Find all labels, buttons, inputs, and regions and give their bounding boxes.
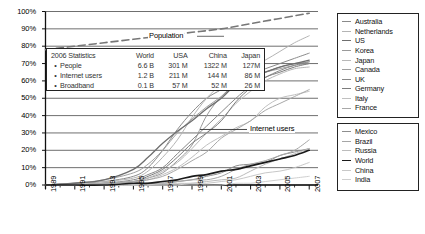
legend-label: Italy <box>355 95 368 102</box>
series-line-italy <box>46 91 310 185</box>
legend-item-brazil[interactable]: Brazil <box>342 137 414 147</box>
y-axis-label: 60% <box>2 77 36 85</box>
legend-label: US <box>355 37 365 44</box>
legend-swatch-icon <box>342 179 351 180</box>
y-axis-label: 70% <box>2 60 36 68</box>
legend-item-australia[interactable]: Australia <box>342 17 414 27</box>
legend-swatch-icon <box>342 31 351 32</box>
table-cell: 144 M <box>188 71 227 81</box>
legend-item-india[interactable]: India <box>342 175 414 185</box>
legend-swatch-icon <box>342 79 351 80</box>
x-axis-label: 1993 <box>108 176 117 192</box>
column-header-world: World <box>122 51 154 61</box>
table-row: •People6.6 B301 M1322 M127M <box>51 61 260 71</box>
row-label: •Broadband <box>51 80 122 90</box>
x-axis-label: 2005 <box>283 176 292 192</box>
legend-developed-countries: AustraliaNetherlandsUSKoreaJapanCanadaUK… <box>337 13 419 118</box>
legend-swatch-icon <box>342 141 351 142</box>
legend-swatch-icon <box>342 21 351 22</box>
legend-label: Brazil <box>355 138 372 145</box>
y-axis-label: 50% <box>2 94 36 102</box>
row-label: •People <box>51 61 122 71</box>
legend-label: Germany <box>355 85 384 92</box>
y-axis-label: 10% <box>2 164 36 172</box>
legend-item-canada[interactable]: Canada <box>342 65 414 75</box>
legend-label: Japan <box>355 57 374 64</box>
legend-swatch-icon <box>342 150 351 151</box>
statistics-table: 2006 Statistics World USA China Japan •P… <box>46 48 265 91</box>
legend-label: Canada <box>355 66 380 73</box>
legend-item-netherlands[interactable]: Netherlands <box>342 27 414 37</box>
row-label: •Internet users <box>51 71 122 81</box>
legend-swatch-icon <box>342 40 351 41</box>
legend-item-france[interactable]: France <box>342 103 414 113</box>
y-axis-label: 0% <box>2 181 36 189</box>
y-axis-label: 40% <box>2 112 36 120</box>
annotation-population: Population <box>148 31 184 40</box>
legend-item-italy[interactable]: Italy <box>342 94 414 104</box>
legend-label: Korea <box>355 47 374 54</box>
bullet-icon: • <box>51 61 60 70</box>
table-cell: 57 M <box>154 80 188 90</box>
table-cell: 0.1 B <box>122 80 154 90</box>
legend-swatch-icon <box>342 50 351 51</box>
legend-emerging-countries: MexicoBrazilRussiaWorldChinaIndia <box>337 123 419 191</box>
legend-item-uk[interactable]: UK <box>342 75 414 85</box>
y-axis-label: 100% <box>2 8 36 16</box>
table-row: •Broadband0.1 B57 M52 M26 M <box>51 80 260 90</box>
table-cell: 211 M <box>154 71 188 81</box>
table-title: 2006 Statistics <box>51 51 122 61</box>
table-cell: 86 M <box>227 71 260 81</box>
y-axis-label: 90% <box>2 25 36 33</box>
x-axis-label: 1999 <box>196 176 205 192</box>
statistics-table-body: •People6.6 B301 M1322 M127M•Internet use… <box>51 61 260 90</box>
legend-item-japan[interactable]: Japan <box>342 55 414 65</box>
legend-swatch-icon <box>342 160 351 161</box>
table-cell: 127M <box>227 61 260 71</box>
column-header-china: China <box>188 51 227 61</box>
legend-label: Netherlands <box>355 28 393 35</box>
x-axis-label: 1991 <box>78 176 87 192</box>
legend-swatch-icon <box>342 131 351 132</box>
bullet-icon: • <box>51 71 60 80</box>
legend-item-china[interactable]: China <box>342 165 414 175</box>
table-cell: 301 M <box>154 61 188 71</box>
legend-item-russia[interactable]: Russia <box>342 146 414 156</box>
x-axis-label: 2003 <box>254 176 263 192</box>
legend-item-world[interactable]: World <box>342 156 414 166</box>
table-cell: 1.2 B <box>122 71 154 81</box>
legend-swatch-icon <box>342 108 351 109</box>
table-cell: 26 M <box>227 80 260 90</box>
table-row: •Internet users1.2 B211 M144 M86 M <box>51 71 260 81</box>
table-cell: 6.6 B <box>122 61 154 71</box>
legend-swatch-icon <box>342 88 351 89</box>
legend-swatch-icon <box>342 98 351 99</box>
legend-label: Australia <box>355 18 382 25</box>
legend-label: World <box>355 157 373 164</box>
legend-item-mexico[interactable]: Mexico <box>342 127 414 137</box>
legend-label: Mexico <box>355 128 377 135</box>
legend-label: India <box>355 176 370 183</box>
x-axis-label: 2007 <box>313 176 322 192</box>
legend-item-us[interactable]: US <box>342 36 414 46</box>
x-axis-label: 1995 <box>137 176 146 192</box>
x-axis-label: 1989 <box>49 176 58 192</box>
y-axis-label: 30% <box>2 129 36 137</box>
legend-item-korea[interactable]: Korea <box>342 46 414 56</box>
legend-label: UK <box>355 76 365 83</box>
legend-label: France <box>355 104 377 111</box>
x-axis-label: 2001 <box>225 176 234 192</box>
bullet-icon: • <box>51 81 60 90</box>
annotation-internet-users: Internet users <box>249 124 295 133</box>
legend-swatch-icon <box>342 170 351 171</box>
legend-label: Russia <box>355 147 376 154</box>
x-axis-label: 1997 <box>166 176 175 192</box>
y-axis-label: 20% <box>2 146 36 154</box>
table-cell: 1322 M <box>188 61 227 71</box>
chart-figure: 0%10%20%30%40%50%60%70%80%90%100% 198919… <box>0 0 425 234</box>
legend-swatch-icon <box>342 60 351 61</box>
y-axis-label: 80% <box>2 42 36 50</box>
table-header-row: 2006 Statistics World USA China Japan <box>51 51 260 61</box>
statistics-table-grid: 2006 Statistics World USA China Japan •P… <box>51 51 260 90</box>
legend-item-germany[interactable]: Germany <box>342 84 414 94</box>
